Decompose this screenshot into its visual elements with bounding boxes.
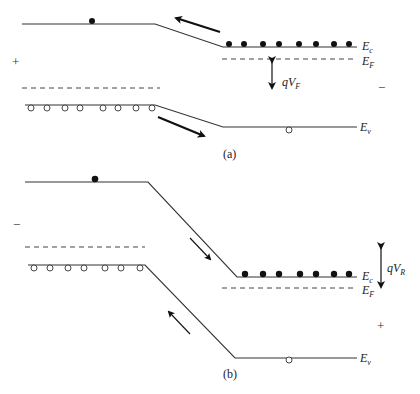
electron-icon (296, 41, 302, 47)
holes-left-b (31, 265, 143, 271)
hole-icon (100, 105, 106, 111)
hole-icon (137, 265, 143, 271)
hole-icon (44, 105, 50, 111)
hole-icon (28, 105, 34, 111)
conduction-band-b (25, 182, 357, 277)
electron-flow-arrow-icon (176, 18, 220, 32)
label-qVF: qVF (282, 75, 300, 91)
hole-icon (65, 265, 71, 271)
hole-icon (118, 265, 124, 271)
label-EF-b: EF (361, 283, 374, 299)
holes-left-a (28, 105, 155, 111)
electron-icon (241, 41, 247, 47)
electron-icon (276, 41, 282, 47)
hole-icon (81, 265, 87, 271)
minus-sign-a: − (378, 80, 385, 95)
electron-icon (226, 41, 232, 47)
valence-band-b (28, 265, 357, 358)
valence-band-a (25, 105, 357, 127)
plus-sign-b: + (377, 318, 384, 333)
hole-drift-arrow-icon (169, 312, 190, 334)
electron-icon (276, 271, 282, 277)
electron-icon (331, 271, 337, 277)
electron-icon (92, 176, 99, 183)
label-Ec-a: Ec (361, 39, 373, 55)
hole-icon (115, 105, 121, 111)
electron-drift-arrow-icon (190, 238, 210, 259)
label-qVR: qVR (387, 261, 405, 277)
panel-a-forward-bias: qVF Ec EF Ev + − (a) (12, 18, 385, 161)
hole-icon (286, 357, 292, 363)
electron-icon (260, 41, 266, 47)
electrons-right-b (242, 271, 352, 277)
minus-sign-b: − (13, 217, 20, 232)
label-Ev-a: Ev (359, 120, 371, 136)
label-Ev-b: Ev (359, 351, 371, 367)
hole-flow-arrow-icon (158, 117, 204, 136)
electron-icon (346, 271, 352, 277)
conduction-band-a (22, 24, 357, 47)
hole-icon (133, 105, 139, 111)
hole-icon (62, 105, 68, 111)
label-EF-a: EF (361, 54, 374, 70)
plus-sign-a: + (12, 54, 19, 69)
electron-icon (260, 271, 266, 277)
panel-b-reverse-bias: qVR Ec EF Ev − + (b) (13, 176, 405, 381)
hole-icon (31, 265, 37, 271)
electron-icon (89, 18, 95, 24)
hole-icon (77, 105, 83, 111)
electrons-right-a (226, 41, 352, 47)
electron-icon (331, 41, 337, 47)
electron-icon (242, 271, 248, 277)
electron-icon (297, 271, 303, 277)
hole-icon (286, 127, 292, 133)
hole-icon (47, 265, 53, 271)
electron-icon (346, 41, 352, 47)
caption-a: (a) (223, 147, 236, 161)
hole-icon (149, 105, 155, 111)
caption-b: (b) (223, 367, 237, 381)
electron-icon (313, 41, 319, 47)
hole-icon (102, 265, 108, 271)
band-diagram: qVF Ec EF Ev + − (a) (0, 0, 420, 394)
electron-icon (313, 271, 319, 277)
